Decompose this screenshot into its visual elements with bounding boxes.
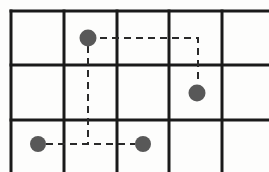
node-d-dot — [135, 136, 151, 152]
node-b-dot — [189, 85, 206, 102]
node-c-dot — [30, 136, 46, 152]
paths-layer — [46, 38, 198, 144]
diagram-canvas — [0, 0, 269, 172]
node-a-dot — [80, 30, 97, 47]
grid-routing-diagram — [0, 0, 269, 172]
dashed-route-a-b — [88, 38, 198, 84]
